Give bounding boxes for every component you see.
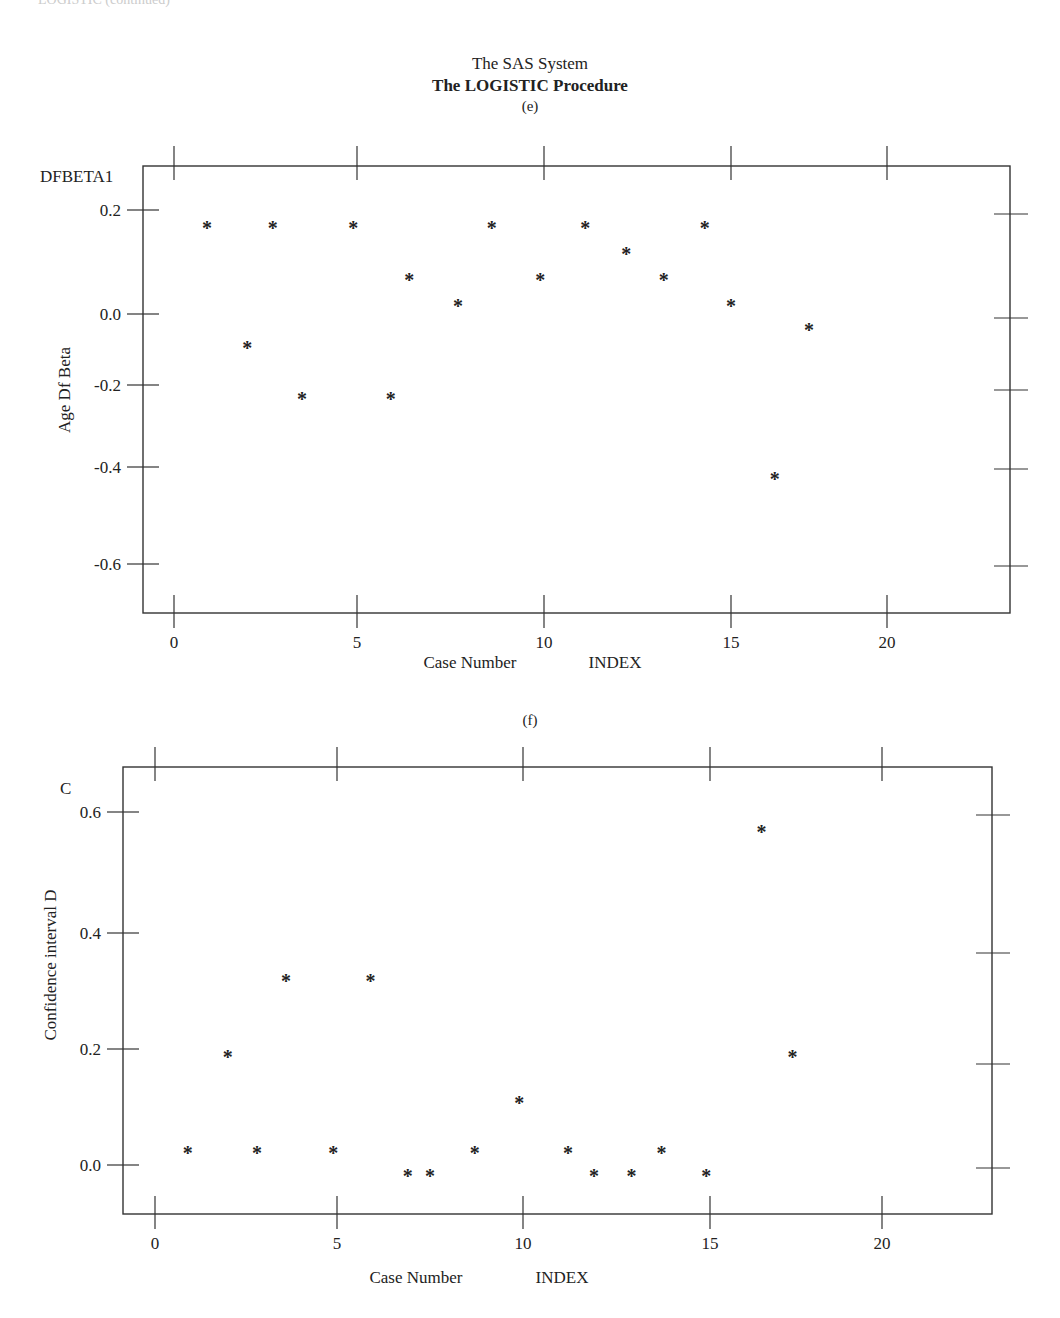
y-tick-label: 0.0 — [80, 1156, 101, 1175]
x-axis-label: Case Number — [423, 653, 516, 672]
y-tick-label: 0.2 — [80, 1040, 101, 1059]
y-tick-label: -0.6 — [94, 555, 121, 574]
data-point-asterisk: * — [701, 1165, 711, 1187]
data-point-asterisk: * — [589, 1165, 599, 1187]
y-variable-name: C — [60, 779, 71, 798]
data-point-asterisk: * — [425, 1165, 435, 1187]
data-point-asterisk: * — [487, 217, 497, 239]
data-point-asterisk: * — [404, 269, 414, 291]
data-point-asterisk: * — [726, 295, 736, 317]
x-variable-name: INDEX — [536, 1268, 589, 1287]
data-point-asterisk: * — [252, 1142, 262, 1164]
data-point-asterisk: * — [757, 821, 767, 843]
x-tick-label: 5 — [333, 1234, 342, 1253]
x-tick-label: 0 — [151, 1234, 160, 1253]
x-tick-label: 15 — [702, 1234, 719, 1253]
y-axis-label: Confidence interval D — [41, 889, 60, 1040]
data-point-asterisk: * — [365, 970, 375, 992]
data-point-asterisk: * — [453, 295, 463, 317]
data-point-asterisk: * — [770, 468, 780, 490]
y-tick-label: -0.2 — [94, 376, 121, 395]
data-point-asterisk: * — [514, 1092, 524, 1114]
data-point-asterisk: * — [403, 1165, 413, 1187]
x-axis-label: Case Number — [369, 1268, 462, 1287]
data-point-asterisk: * — [626, 1165, 636, 1187]
x-tick-label: 20 — [879, 633, 896, 652]
y-tick-label: 0.2 — [100, 201, 121, 220]
data-point-asterisk: * — [268, 217, 278, 239]
x-variable-name: INDEX — [589, 653, 642, 672]
data-point-asterisk: * — [470, 1142, 480, 1164]
x-tick-label: 10 — [536, 633, 553, 652]
data-point-asterisk: * — [700, 217, 710, 239]
data-point-asterisk: * — [804, 319, 814, 341]
x-tick-label: 15 — [723, 633, 740, 652]
y-tick-label: -0.4 — [94, 458, 121, 477]
data-point-asterisk: * — [535, 269, 545, 291]
plots-canvas: 051015200.20.0-0.2-0.4-0.6DFBETA1Age Df … — [0, 0, 1060, 1318]
data-point-asterisk: * — [242, 337, 252, 359]
x-tick-label: 0 — [170, 633, 179, 652]
data-point-asterisk: * — [659, 269, 669, 291]
data-point-asterisk: * — [297, 388, 307, 410]
x-tick-label: 10 — [515, 1234, 532, 1253]
data-point-asterisk: * — [348, 217, 358, 239]
data-point-asterisk: * — [183, 1142, 193, 1164]
data-point-asterisk: * — [223, 1046, 233, 1068]
data-point-asterisk: * — [580, 217, 590, 239]
data-point-asterisk: * — [621, 243, 631, 265]
x-tick-label: 20 — [874, 1234, 891, 1253]
data-point-asterisk: * — [788, 1046, 798, 1068]
chart-f-confidence-d: 051015200.60.40.20.0CConfidence interval… — [41, 747, 1010, 1287]
data-point-asterisk: * — [386, 388, 396, 410]
x-tick-label: 5 — [353, 633, 362, 652]
data-point-asterisk: * — [656, 1142, 666, 1164]
y-tick-label: 0.4 — [80, 924, 102, 943]
data-point-asterisk: * — [563, 1142, 573, 1164]
y-tick-label: 0.6 — [80, 803, 101, 822]
y-axis-label: Age Df Beta — [55, 347, 74, 433]
y-tick-label: 0.0 — [100, 305, 121, 324]
data-point-asterisk: * — [328, 1142, 338, 1164]
data-point-asterisk: * — [281, 970, 291, 992]
chart-e-dfbeta: 051015200.20.0-0.2-0.4-0.6DFBETA1Age Df … — [40, 146, 1028, 672]
y-variable-name: DFBETA1 — [40, 167, 113, 186]
data-point-asterisk: * — [202, 217, 212, 239]
